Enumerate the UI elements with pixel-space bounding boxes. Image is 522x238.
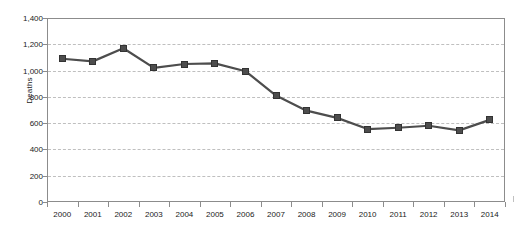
x-axis-tick-mark: [108, 202, 109, 207]
data-point-marker: [425, 122, 432, 129]
data-point-marker: [242, 68, 249, 75]
data-point-marker: [334, 114, 341, 121]
data-point-marker: [303, 107, 310, 114]
x-axis-tick-mark: [505, 202, 506, 207]
gridline: [48, 149, 504, 150]
y-axis-tick-label: 1,400: [3, 14, 43, 23]
y-axis-tick-label: 400: [3, 145, 43, 154]
x-axis-tick-mark: [78, 202, 79, 207]
right-edge-tick: [513, 196, 514, 202]
data-point-marker: [89, 58, 96, 65]
gridline: [48, 44, 504, 45]
y-axis-tick-label: 1,000: [3, 66, 43, 75]
data-point-marker: [211, 60, 218, 67]
x-axis-tick-mark: [139, 202, 140, 207]
x-axis-tick-mark: [383, 202, 384, 207]
y-axis-tick-label: 800: [3, 92, 43, 101]
y-axis-title: Deaths: [25, 61, 34, 121]
data-point-marker: [59, 55, 66, 62]
data-point-marker: [456, 127, 463, 134]
gridline: [48, 71, 504, 72]
x-axis-tick-mark: [444, 202, 445, 207]
gridline: [48, 123, 504, 124]
y-axis-tick-label: 1,200: [3, 40, 43, 49]
data-point-marker: [120, 45, 127, 52]
x-axis-tick-mark: [47, 202, 48, 207]
data-point-marker: [150, 64, 157, 71]
y-axis-tick-label: 600: [3, 119, 43, 128]
data-point-marker: [273, 92, 280, 99]
y-axis-tick-label: 200: [3, 171, 43, 180]
x-axis-tick-mark: [200, 202, 201, 207]
data-point-marker: [486, 116, 493, 123]
x-axis-tick-mark: [230, 202, 231, 207]
x-axis-tick-mark: [474, 202, 475, 207]
x-axis-tick-mark: [322, 202, 323, 207]
data-point-marker: [395, 124, 402, 131]
x-axis-tick-mark: [413, 202, 414, 207]
data-point-marker: [364, 126, 371, 133]
x-axis-tick-mark: [261, 202, 262, 207]
plot-area: [47, 18, 505, 202]
y-axis-tick-label: 0: [3, 198, 43, 207]
x-axis-tick-mark: [169, 202, 170, 207]
data-point-marker: [181, 61, 188, 68]
x-axis-tick-mark: [291, 202, 292, 207]
gridline: [48, 176, 504, 177]
x-axis-tick-mark: [352, 202, 353, 207]
chart-container: Deaths 02004006008001,0001,2001,400 2000…: [0, 0, 522, 238]
x-axis-tick-label: 2014: [470, 210, 510, 219]
